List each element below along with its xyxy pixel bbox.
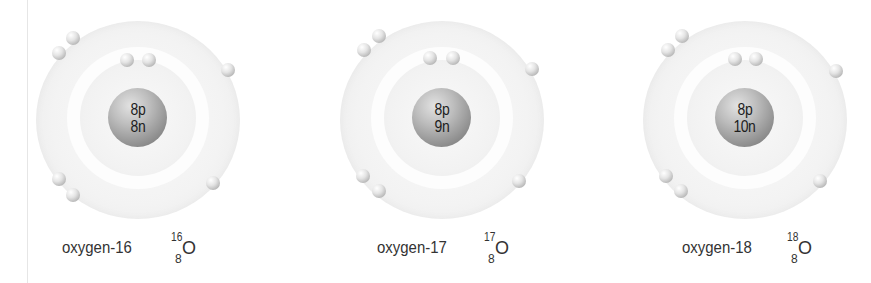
electron xyxy=(66,188,80,202)
electron xyxy=(372,184,386,198)
proton-count: 8p xyxy=(737,101,752,118)
neutron-count: 10n xyxy=(733,118,755,135)
electron xyxy=(142,53,156,67)
element-symbol: O xyxy=(798,238,812,259)
mass-number: 17 xyxy=(484,230,495,244)
electron xyxy=(356,169,370,183)
electron xyxy=(512,174,526,188)
atomic-number: 8 xyxy=(175,252,182,266)
electron xyxy=(675,29,689,43)
isotope-notation: 18 8 O xyxy=(787,228,827,268)
electron xyxy=(423,51,437,65)
isotope-notation: 16 8 O xyxy=(171,228,211,268)
neutron-count: 9n xyxy=(434,118,449,135)
electron xyxy=(120,53,134,67)
electron xyxy=(52,172,66,186)
atom-oxygen-17: 8p 9n xyxy=(332,13,552,233)
isotope-name: oxygen-17 xyxy=(377,238,447,258)
electron xyxy=(661,43,675,57)
electron xyxy=(659,169,673,183)
label-oxygen-17: oxygen-17 17 8 O xyxy=(377,228,517,268)
electron xyxy=(357,43,371,57)
electron xyxy=(66,31,80,45)
electron xyxy=(674,184,688,198)
nucleus: 8p 9n xyxy=(412,88,471,147)
atomic-number: 8 xyxy=(488,252,495,266)
electron xyxy=(728,52,742,66)
electron xyxy=(749,52,763,66)
atomic-number: 8 xyxy=(791,252,798,266)
electron xyxy=(221,63,235,77)
mass-number: 16 xyxy=(171,230,182,244)
isotope-notation: 17 8 O xyxy=(484,228,524,268)
label-oxygen-18: oxygen-18 18 8 O xyxy=(682,228,822,268)
element-symbol: O xyxy=(182,238,196,259)
electron xyxy=(372,29,386,43)
element-symbol: O xyxy=(495,238,509,259)
isotope-name: oxygen-16 xyxy=(62,238,132,258)
nucleus: 8p 10n xyxy=(715,88,774,147)
electron xyxy=(525,62,539,76)
electron xyxy=(52,46,66,60)
atom-oxygen-18: 8p 10n xyxy=(635,13,855,233)
proton-count: 8p xyxy=(130,101,145,118)
electron xyxy=(813,174,827,188)
mass-number: 18 xyxy=(787,230,798,244)
isotope-name: oxygen-18 xyxy=(682,238,752,258)
atom-oxygen-16: 8p 8n xyxy=(28,13,248,233)
nucleus: 8p 8n xyxy=(108,88,167,147)
electron xyxy=(446,51,460,65)
electron xyxy=(206,176,220,190)
proton-count: 8p xyxy=(434,101,449,118)
label-oxygen-16: oxygen-16 16 8 O xyxy=(62,228,202,268)
electron xyxy=(829,64,843,78)
neutron-count: 8n xyxy=(130,118,145,135)
